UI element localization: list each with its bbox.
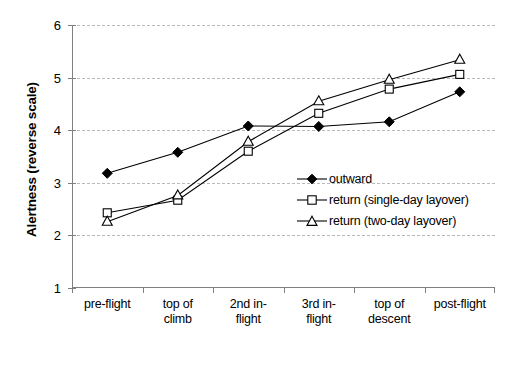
x-axis-label-line: climb [143, 312, 214, 327]
legend-marker-filled-diamond-icon [295, 172, 329, 186]
x-tick-0 [72, 288, 73, 293]
point-return-two-day-5 [455, 54, 465, 63]
x-axis-label-pre-flight: pre-flight [72, 297, 143, 312]
x-tick-1 [143, 288, 144, 293]
point-return-single-day-4 [385, 85, 393, 93]
y-tick-label-1: 1 [54, 281, 61, 296]
x-axis-label-top-of-climb: top of climb [143, 297, 214, 327]
y-tick-label-2: 2 [54, 228, 61, 243]
y-axis-title: Alertness (reverse scale) [24, 35, 39, 285]
x-tick-5 [425, 288, 426, 293]
x-axis-label-line: top of [354, 297, 425, 312]
x-axis-label-line: pre-flight [72, 297, 143, 312]
y-tick-label-4: 4 [54, 123, 61, 138]
x-tick-2 [213, 288, 214, 293]
y-tick-label-6: 6 [54, 18, 61, 33]
point-outward-4 [384, 117, 394, 127]
x-axis-label-line: flight [213, 312, 284, 327]
x-axis-label-line: top of [143, 297, 214, 312]
x-tick-3 [284, 288, 285, 293]
x-tick-6 [494, 288, 495, 293]
x-axis-label-line: descent [354, 312, 425, 327]
x-axis-label-line: flight [284, 312, 355, 327]
x-axis-label-line: post-flight [425, 297, 496, 312]
legend-label-return-single-day: return (single-day layover) [329, 193, 469, 207]
x-tick-4 [354, 288, 355, 293]
chart-figure: Alertness (reverse scale) 6 5 4 3 2 1 [0, 0, 531, 371]
y-tick-label-5: 5 [54, 70, 61, 85]
point-return-single-day-2 [244, 147, 252, 155]
legend-item-return-two-day: return (two-day layover) [295, 210, 520, 231]
legend-marker-open-triangle-icon [295, 214, 329, 228]
y-tick-label-3: 3 [54, 175, 61, 190]
point-outward-3 [314, 122, 324, 132]
point-return-two-day-2 [243, 136, 253, 145]
plot-area: 6 5 4 3 2 1 [72, 25, 495, 288]
legend-marker-open-square-icon [295, 193, 329, 207]
point-return-single-day-3 [315, 109, 323, 117]
legend: outward return (single-day layover) retu… [295, 168, 520, 231]
legend-label-outward: outward [329, 172, 372, 186]
legend-item-outward: outward [295, 168, 520, 189]
x-axis-label-post-flight: post-flight [425, 297, 496, 312]
x-axis-label-2nd-in-flight: 2nd in- flight [213, 297, 284, 327]
point-outward-1 [173, 147, 183, 157]
legend-item-return-single-day: return (single-day layover) [295, 189, 520, 210]
legend-label-return-two-day: return (two-day layover) [329, 214, 456, 228]
series-layer [72, 25, 495, 288]
point-outward-2 [243, 121, 253, 131]
x-axis-label-3rd-in-flight: 3rd in- flight [284, 297, 355, 327]
x-axis-label-line: 2nd in- [213, 297, 284, 312]
point-outward-5 [455, 87, 465, 97]
x-axis-label-line: 3rd in- [284, 297, 355, 312]
x-axis-label-top-of-descent: top of descent [354, 297, 425, 327]
point-return-single-day-5 [456, 70, 464, 78]
point-outward-0 [102, 168, 112, 178]
point-return-two-day-1 [173, 190, 183, 199]
